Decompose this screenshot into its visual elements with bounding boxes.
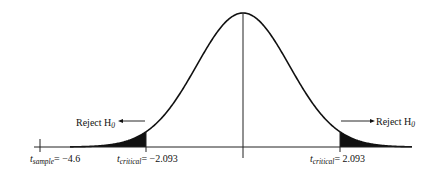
t-sample-label: tsample= −4.6	[30, 153, 80, 166]
left-reject-label: Reject H0	[76, 117, 115, 130]
t-distribution-chart: Reject H0 Reject H0 tsample= −4.6 tcriti…	[0, 0, 436, 172]
t-critical-left-label: tcritical= −2.093	[117, 153, 178, 166]
right-arrowhead-icon	[370, 119, 375, 123]
right-reject-label: Reject H0	[376, 116, 415, 129]
t-critical-right-label: tcritical= 2.093	[310, 153, 365, 166]
right-reject-annotation: Reject H0	[341, 116, 415, 129]
distribution-curve	[70, 13, 412, 147]
left-arrowhead-icon	[118, 119, 123, 123]
left-reject-annotation: Reject H0	[76, 117, 145, 130]
